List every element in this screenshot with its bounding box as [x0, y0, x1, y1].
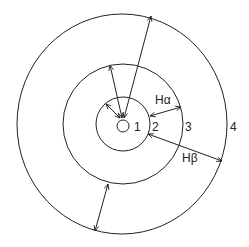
h-beta-label: Hβ: [182, 151, 198, 165]
orbit-3-circle: [63, 64, 183, 184]
orbit-2-circle: [96, 97, 150, 151]
orbit-2-label: 2: [152, 120, 159, 134]
radius-arrow-orbit-2: [106, 104, 120, 118]
orbit-1-circle: [117, 120, 129, 132]
orbit-3-label: 3: [185, 120, 192, 134]
h-alpha-arrow: [150, 107, 181, 116]
radius-arrow-orbit-4: [124, 16, 151, 118]
orbit-1-label: 1: [134, 120, 141, 134]
h-alpha-label: Hα: [155, 93, 171, 107]
orbit-4-circle: [17, 14, 227, 234]
bohr-orbit-diagram: 1 2 3 4 Hα Hβ: [0, 0, 249, 247]
orbit-4-label: 4: [230, 120, 237, 134]
gap-arrow-orbit-3-4: [95, 184, 108, 231]
